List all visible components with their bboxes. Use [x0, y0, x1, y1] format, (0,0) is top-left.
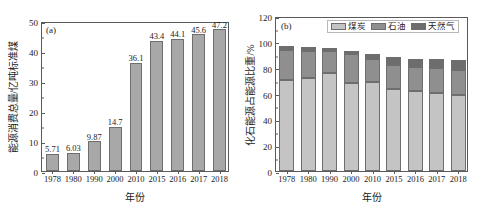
- segment-coal[interactable]: [279, 80, 294, 171]
- x-tick-label: 2018: [211, 175, 228, 184]
- segment-oil[interactable]: [451, 70, 466, 94]
- x-tick-mark: [351, 171, 352, 174]
- stacked-bar[interactable]: [451, 60, 466, 171]
- y-tick-label: 0: [34, 169, 43, 178]
- x-tick-mark: [136, 171, 137, 174]
- x-tick-label: 2017: [190, 175, 207, 184]
- x-tick-label: 1990: [321, 175, 338, 184]
- bar[interactable]: 36.1: [130, 63, 143, 171]
- x-tick-label: 2015: [385, 175, 402, 184]
- segment-coal[interactable]: [386, 89, 401, 171]
- x-tick-mark: [458, 171, 459, 174]
- bar[interactable]: 47.2: [213, 29, 226, 171]
- x-tick-label: 2000: [107, 175, 124, 184]
- segment-gas[interactable]: [451, 60, 466, 70]
- legend-swatch-icon: [331, 23, 346, 30]
- figure-canvas: 能源消费总量/亿吨标准煤 (a) 01020304050 5.716.039.8…: [0, 0, 479, 213]
- x-tick-mark: [115, 171, 116, 174]
- bar[interactable]: 44.1: [171, 39, 184, 171]
- y-tick-label: 50: [29, 19, 42, 28]
- chart-legend-b[interactable]: 煤炭石油天然气: [327, 20, 459, 33]
- x-tick-label: 2016: [407, 175, 424, 184]
- segment-oil[interactable]: [279, 50, 294, 79]
- segment-coal[interactable]: [408, 91, 423, 171]
- x-tick-mark: [330, 171, 331, 174]
- segment-gas[interactable]: [279, 46, 294, 50]
- legend-swatch-icon: [371, 23, 386, 30]
- x-tick-mark: [437, 171, 438, 174]
- legend-label: 煤炭: [348, 22, 366, 31]
- segment-oil[interactable]: [408, 67, 423, 91]
- segment-gas[interactable]: [408, 59, 423, 67]
- bar[interactable]: 9.87: [88, 141, 101, 171]
- bar-value-label: 36.1: [129, 54, 144, 63]
- stacked-bar[interactable]: [408, 59, 423, 171]
- segment-oil[interactable]: [386, 65, 401, 89]
- x-tick-mark: [308, 171, 309, 174]
- x-tick-mark: [157, 171, 158, 174]
- stacked-bar[interactable]: [386, 57, 401, 171]
- bar-value-label: 9.87: [87, 133, 102, 142]
- y-tick-label: 60: [263, 91, 276, 100]
- segment-oil[interactable]: [429, 68, 444, 92]
- x-tick-label: 1980: [300, 175, 317, 184]
- legend-label: 石油: [388, 22, 406, 31]
- segment-coal[interactable]: [301, 78, 316, 171]
- bar[interactable]: 5.71: [46, 154, 59, 171]
- segment-gas[interactable]: [386, 57, 401, 65]
- x-axis-ticks-b: 197819801990200020102015201620172018: [276, 171, 467, 193]
- y-tick-label: 40: [263, 117, 276, 126]
- y-axis-label-a: 能源消费总量/亿吨标准煤: [9, 41, 19, 154]
- bar[interactable]: 14.7: [109, 127, 122, 171]
- chart-panel-b: 化石能源占能源比重/% (b) 020406080100120 煤炭石油天然气 …: [239, 0, 479, 213]
- stacked-bar[interactable]: [365, 54, 380, 171]
- segment-coal[interactable]: [451, 95, 466, 171]
- segment-oil[interactable]: [365, 59, 380, 81]
- x-tick-label: 1978: [44, 175, 61, 184]
- y-tick-label: 100: [259, 39, 277, 48]
- chart-panel-a: 能源消费总量/亿吨标准煤 (a) 01020304050 5.716.039.8…: [0, 0, 239, 213]
- x-tick-mark: [73, 171, 74, 174]
- x-tick-mark: [178, 171, 179, 174]
- segment-gas[interactable]: [429, 59, 444, 68]
- legend-item-2[interactable]: 石油: [371, 22, 406, 31]
- legend-item-3[interactable]: 天然气: [411, 22, 455, 31]
- x-tick-mark: [373, 171, 374, 174]
- segment-coal[interactable]: [322, 73, 337, 171]
- segment-gas[interactable]: [344, 51, 359, 54]
- y-tick-label: 20: [29, 109, 42, 118]
- stacked-bar[interactable]: [301, 47, 316, 171]
- x-tick-label: 2015: [148, 175, 165, 184]
- segment-gas[interactable]: [365, 54, 380, 59]
- segment-gas[interactable]: [301, 47, 316, 51]
- x-tick-label: 2010: [128, 175, 145, 184]
- plot-area-b: (b) 020406080100120 煤炭石油天然气 197819801990…: [275, 17, 468, 172]
- x-tick-mark: [199, 171, 200, 174]
- x-tick-mark: [394, 171, 395, 174]
- segment-coal[interactable]: [429, 93, 444, 171]
- bar[interactable]: 43.4: [150, 41, 163, 171]
- segment-oil[interactable]: [301, 51, 316, 78]
- y-tick-label: 20: [263, 143, 276, 152]
- y-axis-label-b: 化石能源占能源比重/%: [245, 44, 255, 145]
- y-tick-label: 80: [263, 65, 276, 74]
- x-tick-label: 1978: [278, 175, 295, 184]
- stacked-bar[interactable]: [429, 59, 444, 171]
- segment-oil[interactable]: [344, 54, 359, 82]
- bar-value-label: 44.1: [170, 30, 185, 39]
- x-tick-mark: [415, 171, 416, 174]
- segment-gas[interactable]: [322, 48, 337, 51]
- stacked-bar[interactable]: [344, 51, 359, 171]
- stacked-bar[interactable]: [279, 46, 294, 171]
- segment-coal[interactable]: [365, 82, 380, 171]
- segment-coal[interactable]: [344, 83, 359, 171]
- stacked-bar-series-b: [276, 18, 467, 171]
- stacked-bar[interactable]: [322, 48, 337, 171]
- legend-item-1[interactable]: 煤炭: [331, 22, 366, 31]
- bar[interactable]: 45.6: [192, 34, 205, 171]
- bar[interactable]: 6.03: [67, 153, 80, 171]
- x-axis-label-a: 年份: [41, 193, 229, 203]
- segment-oil[interactable]: [322, 51, 337, 72]
- x-tick-mark: [287, 171, 288, 174]
- bar-value-label: 43.4: [149, 32, 164, 41]
